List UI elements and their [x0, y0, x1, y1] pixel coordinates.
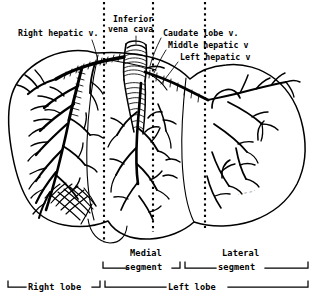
label-caudate-lobe-vein: Caudate lobe v. [163, 28, 238, 38]
lobe-bracket-group: Right lobe Left lobe [8, 281, 308, 292]
bracket-label-lateral-segment-line2: segment [218, 262, 255, 272]
bracket-label-medial-segment-line1: Medial [130, 248, 162, 258]
segment-bracket-group: Medial segment Lateral segment [103, 248, 308, 272]
lateral-main-a4 [286, 81, 300, 83]
hepatic-anatomy-figure: Right hepatic v. Inferior vena cava Caud… [0, 0, 318, 293]
label-inferior-vena-cava-line2: vena cava [108, 24, 153, 34]
bracket-label-medial-segment-line2: segment [125, 262, 162, 272]
bracket-label-left-lobe: Left lobe [168, 282, 216, 292]
ivc-top-rim-inner [127, 45, 146, 49]
bracket-label-lateral-segment-line1: Lateral [222, 248, 259, 258]
label-right-hepatic-vein: Right hepatic v. [18, 28, 98, 38]
label-inferior-vena-cava-line1: Inferior [113, 14, 153, 24]
label-middle-hepatic-vein: Middle hepatic v [168, 40, 248, 50]
bracket-label-right-lobe: Right lobe [28, 282, 81, 292]
label-left-hepatic-vein: Left hepatic v [180, 52, 250, 62]
